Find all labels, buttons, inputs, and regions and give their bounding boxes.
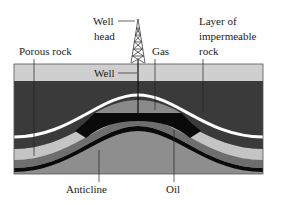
- label-oil: Oil: [166, 183, 180, 195]
- label-gas: Gas: [152, 45, 169, 57]
- label-anticline: Anticline: [66, 183, 107, 195]
- label-impermeable-2: impermeable: [199, 30, 256, 42]
- label-impermeable-1: Layer of: [199, 15, 237, 27]
- derrick-icon: [131, 19, 145, 63]
- label-porous-rock: Porous rock: [19, 45, 72, 57]
- label-well: Well: [94, 67, 115, 79]
- label-impermeable-3: rock: [199, 45, 219, 57]
- label-well-head-1: Well: [93, 15, 114, 27]
- label-well-head-2: head: [94, 30, 115, 42]
